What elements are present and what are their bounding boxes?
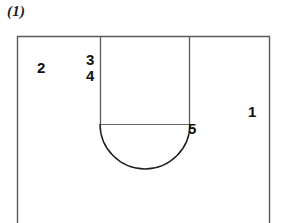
region-label-3: 3 (86, 52, 94, 67)
region-label-2: 2 (37, 60, 45, 75)
region-label-4: 4 (86, 68, 94, 83)
outer-boundary-rectangle (17, 36, 270, 223)
region-label-1: 1 (248, 104, 256, 119)
u-shaped-channel (100, 36, 190, 125)
figure-canvas: (1) 2 3 4 5 1 (0, 0, 282, 223)
region-label-5: 5 (188, 121, 196, 136)
semicircular-arc (100, 124, 190, 169)
geometric-diagram (0, 0, 282, 223)
